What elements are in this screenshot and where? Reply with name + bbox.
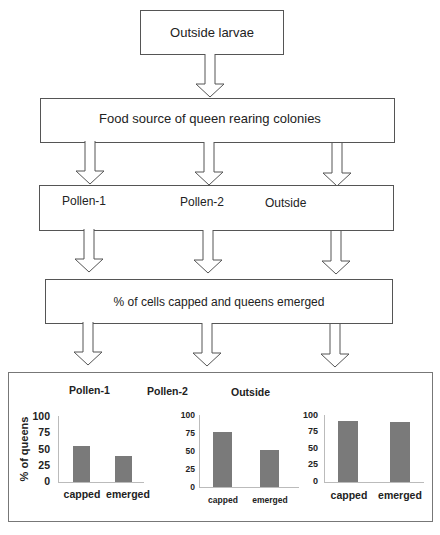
down-arrow-icon	[192, 323, 222, 367]
panel-title-pollen-2: Pollen-2	[147, 385, 188, 397]
bar-emerged	[115, 456, 132, 482]
y-axis	[58, 416, 59, 482]
y-tick: 0	[169, 482, 195, 492]
y-tick: 75	[169, 428, 195, 438]
down-arrow-icon	[321, 231, 351, 275]
result-box: % of cells capped and queens emerged	[45, 279, 393, 324]
chart-outside: 100 75 50 25 0 capped emerged	[294, 410, 429, 515]
bar-emerged	[390, 422, 410, 482]
panel-title-pollen-1: Pollen-1	[69, 384, 110, 396]
result-label: % of cells capped and queens emerged	[114, 295, 325, 309]
y-axis	[199, 415, 200, 487]
bar-capped	[73, 446, 90, 482]
chart-pollen-1: 100 75 50 25 0 capped emerged	[24, 410, 154, 510]
y-tick: 75	[294, 426, 318, 436]
y-axis	[324, 415, 325, 482]
y-tick: 100	[169, 410, 195, 420]
x-label-emerged: emerged	[104, 488, 152, 500]
down-arrow-icon	[195, 54, 225, 98]
y-tick: 100	[294, 410, 318, 420]
food-source-label: Food source of queen rearing colonies	[99, 111, 321, 126]
x-label-emerged: emerged	[247, 495, 293, 505]
source-pollen-1: Pollen-1	[62, 194, 106, 208]
x-label-capped: capped	[323, 489, 375, 501]
outside-larvae-label: Outside larvae	[170, 25, 254, 40]
source-outside: Outside	[265, 196, 306, 210]
x-axis	[324, 482, 424, 483]
down-arrow-icon	[193, 230, 223, 274]
y-tick: 50	[169, 446, 195, 456]
down-arrow-icon	[73, 322, 103, 366]
down-arrow-icon	[194, 142, 224, 186]
down-arrow-icon	[74, 229, 104, 273]
chart-pollen-2: 100 75 50 25 0 capped emerged	[169, 410, 304, 515]
bar-capped	[213, 432, 232, 487]
down-arrow-icon	[75, 141, 105, 185]
y-tick: 0	[294, 476, 318, 486]
x-label-emerged: emerged	[374, 489, 426, 501]
y-tick: 50	[24, 443, 50, 455]
bar-emerged	[260, 450, 279, 487]
results-panel: Pollen-1 Pollen-2 Outside % of queens 10…	[8, 372, 433, 522]
outside-larvae-box: Outside larvae	[140, 10, 284, 55]
y-tick: 50	[294, 443, 318, 453]
source-pollen-2: Pollen-2	[180, 195, 224, 209]
x-axis	[58, 482, 144, 483]
y-tick: 25	[169, 464, 195, 474]
x-label-capped: capped	[58, 488, 106, 500]
food-source-box: Food source of queen rearing colonies	[40, 98, 395, 143]
bar-capped	[338, 421, 358, 482]
down-arrow-icon	[322, 143, 352, 187]
food-options-box: Pollen-1 Pollen-2 Outside	[39, 185, 394, 231]
y-tick: 25	[24, 459, 50, 471]
panel-title-outside: Outside	[231, 386, 270, 398]
y-tick: 100	[24, 410, 50, 422]
x-axis	[199, 487, 299, 488]
y-tick: 25	[294, 459, 318, 469]
y-tick: 75	[24, 426, 50, 438]
down-arrow-icon	[320, 324, 350, 368]
y-tick: 0	[24, 475, 50, 487]
x-label-capped: capped	[200, 495, 246, 505]
